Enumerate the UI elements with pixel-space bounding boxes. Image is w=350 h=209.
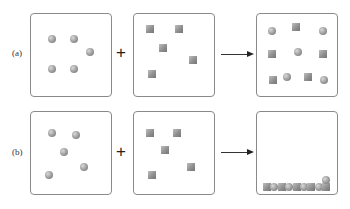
sphere-particle bbox=[294, 48, 302, 56]
row-b-reactant-cubes-box bbox=[133, 111, 215, 195]
sphere-particle bbox=[80, 163, 88, 171]
cube-particle bbox=[148, 70, 156, 78]
row-a-plus-sign: + bbox=[116, 44, 126, 61]
row-b-reactant-spheres-box bbox=[30, 111, 112, 195]
sphere-particle bbox=[48, 35, 56, 43]
cube-particle bbox=[146, 25, 154, 33]
row-label-a: (a) bbox=[12, 48, 22, 58]
row-a-reactant-spheres-box bbox=[30, 13, 112, 97]
sphere-particle bbox=[283, 73, 291, 81]
row-b-plus-sign: + bbox=[116, 143, 126, 160]
sphere-particle bbox=[319, 27, 327, 35]
sphere-particle bbox=[48, 129, 56, 137]
cube-particle bbox=[319, 50, 327, 58]
cube-particle bbox=[268, 50, 276, 58]
sphere-particle bbox=[70, 35, 78, 43]
cube-particle bbox=[269, 76, 277, 84]
sphere-particle bbox=[268, 27, 276, 35]
cube-particle bbox=[173, 129, 181, 137]
cube-particle bbox=[159, 44, 167, 52]
cube-particle bbox=[148, 171, 156, 179]
precipitate-layer bbox=[263, 183, 331, 191]
precipitate-cube bbox=[322, 183, 330, 191]
cube-particle bbox=[189, 56, 197, 64]
sphere-particle bbox=[320, 76, 328, 84]
cube-particle bbox=[292, 23, 300, 31]
row-label-b: (b) bbox=[12, 147, 23, 157]
sphere-particle bbox=[86, 48, 94, 56]
row-a-reactant-cubes-box bbox=[133, 13, 215, 97]
cube-particle bbox=[146, 129, 154, 137]
cube-particle bbox=[161, 146, 169, 154]
row-a-reaction-arrow bbox=[221, 54, 249, 55]
cube-particle bbox=[304, 73, 312, 81]
cube-particle bbox=[175, 25, 183, 33]
row-b-product-box bbox=[256, 111, 338, 195]
sphere-particle bbox=[70, 65, 78, 73]
sphere-particle bbox=[48, 65, 56, 73]
sphere-particle bbox=[60, 148, 68, 156]
sphere-particle bbox=[45, 171, 53, 179]
sphere-particle bbox=[72, 131, 80, 139]
row-a-product-box bbox=[256, 13, 338, 97]
row-b-reaction-arrow bbox=[221, 152, 249, 153]
cube-particle bbox=[187, 163, 195, 171]
